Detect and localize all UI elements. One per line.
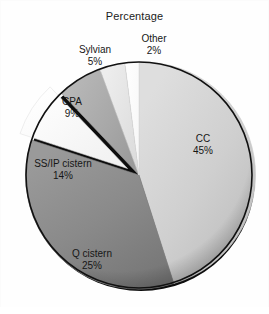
slice-label-other-value: 2% [128, 45, 180, 57]
slice-label-other: Other 2% [128, 33, 180, 56]
slice-label-ssip-cistern: SS/IP cistern 14% [12, 158, 114, 181]
slice-label-ssip-cistern-name: SS/IP cistern [12, 158, 114, 170]
slice-label-other-name: Other [128, 33, 180, 45]
slice-label-sylvian-name: Sylvian [66, 44, 124, 56]
slice-label-cc-name: CC [180, 133, 226, 145]
slice-label-sylvian-value: 5% [66, 56, 124, 68]
slice-label-cc: CC 45% [180, 133, 226, 156]
slice-label-q-cistern: Q cistern 25% [52, 248, 132, 271]
slice-label-q-cistern-value: 25% [52, 260, 132, 272]
slice-label-cpa: CPA 9% [42, 96, 102, 119]
slice-label-cc-value: 45% [180, 145, 226, 157]
figure-bottom-margin [0, 307, 269, 314]
slice-label-q-cistern-name: Q cistern [52, 248, 132, 260]
slice-label-cpa-name: CPA [42, 96, 102, 108]
slice-label-ssip-cistern-value: 14% [12, 170, 114, 182]
slice-label-sylvian: Sylvian 5% [66, 44, 124, 67]
slice-label-cpa-value: 9% [42, 108, 102, 120]
pie-chart-figure: Percentage [0, 0, 269, 314]
